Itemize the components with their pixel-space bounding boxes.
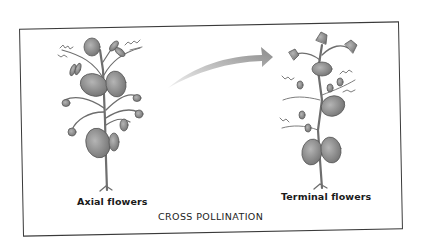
- figure-caption: CROSS POLLINATION: [158, 211, 263, 222]
- terminal-flowering-plant-illustration: [280, 32, 357, 189]
- axial-flowers-label: Axial flowers: [77, 196, 148, 207]
- terminal-flowers-label: Terminal flowers: [281, 191, 371, 202]
- curved-arrow-icon: [168, 47, 273, 88]
- axial-flowering-plant-illustration: [58, 38, 143, 191]
